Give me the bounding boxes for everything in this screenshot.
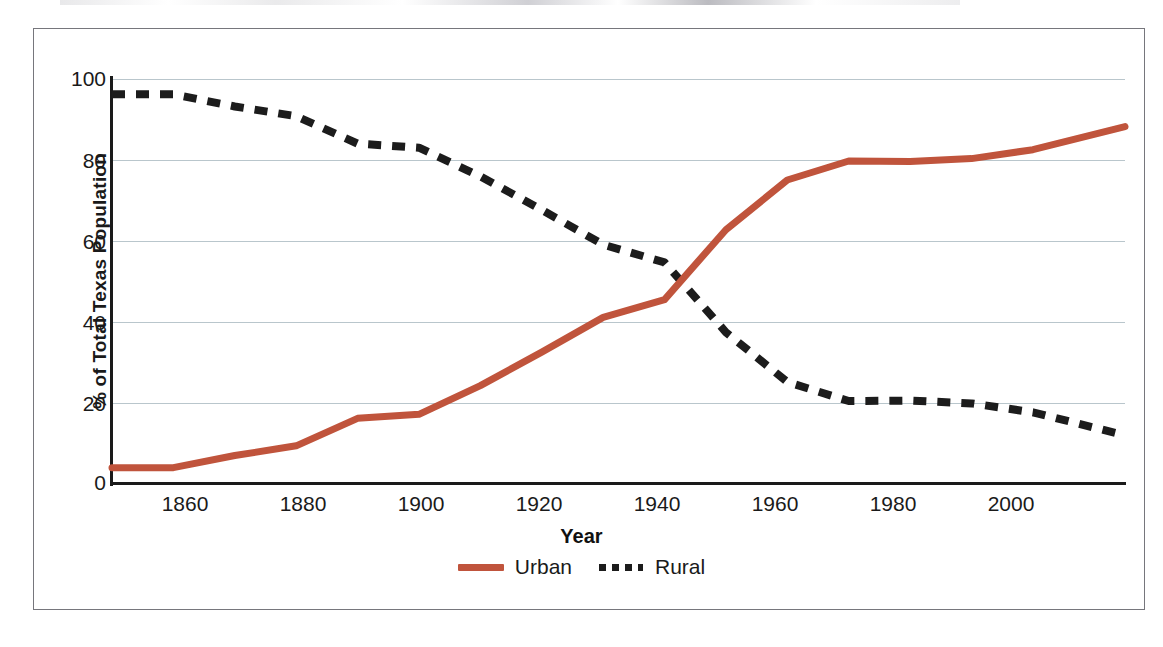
y-tick-80: 80 — [54, 150, 106, 171]
x-tick-1940: 1940 — [612, 492, 702, 516]
y-tick-0: 0 — [54, 472, 106, 493]
line-chart: % of Total Texas Population 100 80 60 40… — [0, 0, 1163, 647]
legend-label-rural: Rural — [655, 555, 705, 579]
legend-item-urban[interactable]: Urban — [458, 555, 572, 579]
x-tick-1860: 1860 — [140, 492, 230, 516]
plot-area — [112, 79, 1125, 483]
y-tick-60: 60 — [54, 231, 106, 252]
x-tick-1980: 1980 — [848, 492, 938, 516]
x-axis-label: Year — [0, 525, 1163, 548]
legend-label-urban: Urban — [515, 555, 572, 579]
y-tick-40: 40 — [54, 312, 106, 333]
x-tick-1880: 1880 — [258, 492, 348, 516]
chart-legend: Urban Rural — [0, 555, 1163, 579]
legend-swatch-rural-icon — [598, 564, 644, 571]
y-tick-100: 100 — [54, 68, 106, 89]
x-tick-1920: 1920 — [494, 492, 584, 516]
legend-swatch-urban-icon — [458, 564, 504, 571]
x-tick-1960: 1960 — [730, 492, 820, 516]
legend-item-rural[interactable]: Rural — [598, 555, 705, 579]
urban-series-line — [112, 127, 1125, 468]
y-axis-ticks: 100 80 60 40 20 0 — [50, 0, 106, 647]
series-svg — [112, 79, 1125, 483]
y-tick-20: 20 — [54, 393, 106, 414]
x-tick-2000: 2000 — [966, 492, 1056, 516]
x-tick-1900: 1900 — [376, 492, 466, 516]
rural-series-line — [112, 94, 1125, 435]
